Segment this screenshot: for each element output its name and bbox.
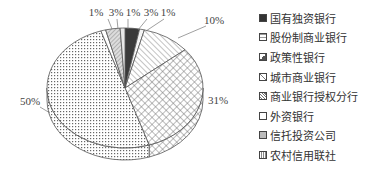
leader-line	[146, 19, 164, 31]
legend-item: 外资银行	[259, 106, 358, 126]
legend-item: 股份制商业银行	[259, 28, 358, 48]
slice-label: 50%	[20, 95, 40, 107]
pie-slices	[47, 28, 203, 160]
swatch-icon	[259, 14, 267, 22]
slice-label: 3%	[144, 6, 159, 18]
swatch-icon	[259, 33, 267, 41]
leader-line	[117, 19, 118, 29]
swatch-icon	[259, 131, 267, 139]
swatch-icon	[259, 151, 267, 159]
legend-item: 农村信用联社	[259, 145, 358, 165]
legend-item: 政策性银行	[259, 47, 358, 67]
slice-label: 1%	[89, 6, 104, 18]
leader-line	[178, 26, 206, 38]
slice-label: 1%	[126, 6, 141, 18]
legend-item: 国有独资银行	[259, 8, 358, 28]
swatch-icon	[259, 53, 267, 61]
slice-label: 3%	[109, 6, 124, 18]
legend-item: 城市商业银行	[259, 67, 358, 87]
slice-label: 31%	[208, 94, 228, 106]
swatch-icon	[259, 73, 267, 81]
legend: 国有独资银行 股份制商业银行 政策性银行 城市商业银行 商业银行授权分行 外资银…	[259, 8, 358, 165]
pie-chart: 1%3%1%3%1%10%31%50%	[0, 0, 260, 170]
slice-label: 1%	[161, 6, 176, 18]
leader-line	[108, 19, 112, 29]
legend-item: 信托投资公司	[259, 126, 358, 146]
swatch-icon	[259, 112, 267, 120]
leader-line	[138, 19, 147, 30]
legend-item: 商业银行授权分行	[259, 86, 358, 106]
swatch-icon	[259, 92, 267, 100]
slice-label: 10%	[204, 14, 224, 26]
